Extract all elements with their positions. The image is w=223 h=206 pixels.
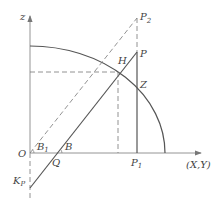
z-axis-label: z <box>19 11 26 22</box>
b1-label: B1 <box>36 141 49 154</box>
kp-label: KP <box>12 175 25 188</box>
q-label: Q <box>52 157 60 168</box>
p2-label: P2 <box>139 11 152 25</box>
ellipse-arc <box>30 46 165 153</box>
angle-mark-b <box>60 149 62 153</box>
p-label: P <box>139 48 147 59</box>
angle-mark-b1 <box>33 150 35 153</box>
dashed-line-o-p2 <box>30 18 137 153</box>
origin-label: O <box>18 148 26 159</box>
projection-diagram: z P2 P H Z O B1 B Q P1 (X,Y) KP <box>0 0 223 206</box>
b-label: B <box>64 141 72 152</box>
xy-axis-label: (X,Y) <box>186 159 211 170</box>
z-point-label: Z <box>139 79 148 90</box>
p1-label: P1 <box>130 157 142 170</box>
h-label: H <box>117 55 127 66</box>
